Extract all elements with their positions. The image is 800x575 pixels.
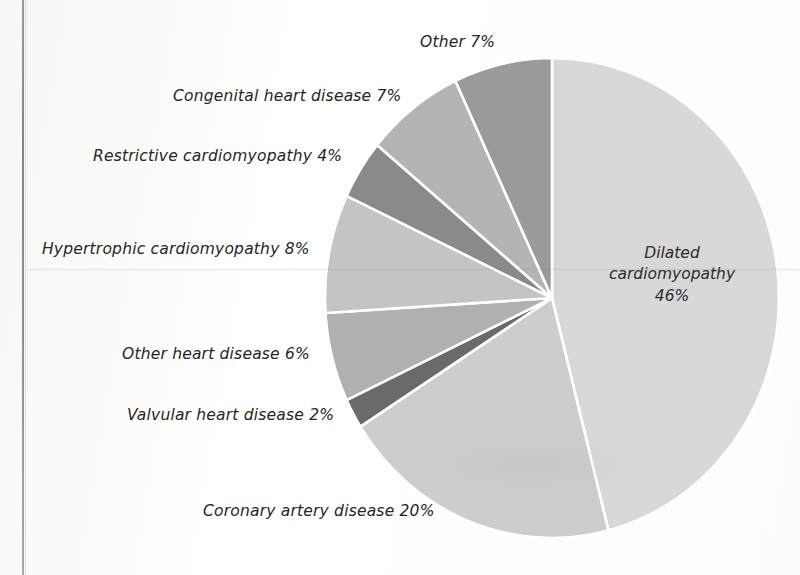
- slice-label-hypertrophic-cardiomyopathy: Hypertrophic cardiomyopathy 8%: [42, 240, 310, 258]
- chart-page: Other 7% Congenital heart disease 7% Res…: [0, 0, 800, 575]
- slice-label-congenital-heart-disease: Congenital heart disease 7%: [173, 87, 401, 105]
- slice-label-restrictive-cardiomyopathy: Restrictive cardiomyopathy 4%: [93, 147, 342, 165]
- slice-label-other: Other 7%: [420, 33, 495, 51]
- slice-label-coronary-artery-disease: Coronary artery disease 20%: [203, 502, 435, 520]
- slice-label-other-heart-disease: Other heart disease 6%: [122, 345, 310, 363]
- slice-label-dilated-cardiomyopathy: Dilated cardiomyopathy 46%: [592, 243, 752, 307]
- slice-label-valvular-heart-disease: Valvular heart disease 2%: [127, 406, 334, 424]
